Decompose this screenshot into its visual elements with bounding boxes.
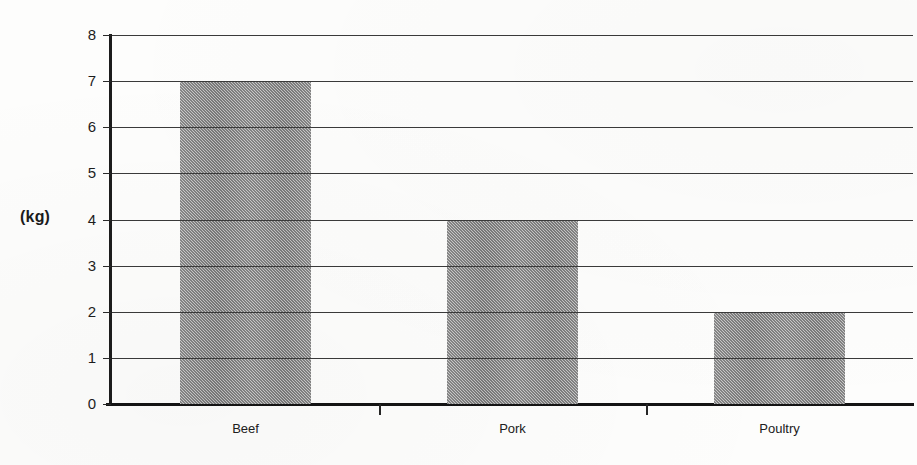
y-tick-label-8: 8 xyxy=(88,26,96,43)
y-tick-5: 5 xyxy=(103,173,111,174)
x-tick-boundary-1 xyxy=(379,404,381,415)
bar-texture xyxy=(180,81,311,404)
x-tick-boundary-2 xyxy=(646,404,648,415)
y-tick-label-7: 7 xyxy=(88,72,96,89)
y-tick-8: 8 xyxy=(103,35,111,36)
gridline-y-4 xyxy=(112,220,913,221)
plot-area: 012345678 BeefPorkPoultry xyxy=(112,35,913,404)
y-tick-label-6: 6 xyxy=(88,118,96,135)
gridline-y-1 xyxy=(112,358,913,359)
gridline-y-8 xyxy=(112,35,913,36)
y-axis-unit-label: (kg) xyxy=(20,208,50,226)
gridline-y-7 xyxy=(112,81,913,82)
y-tick-label-2: 2 xyxy=(88,303,96,320)
y-tick-4: 4 xyxy=(103,220,111,221)
y-tick-label-4: 4 xyxy=(88,211,96,228)
x-category-label-beef: Beef xyxy=(232,421,259,436)
y-tick-label-5: 5 xyxy=(88,165,96,182)
y-tick-7: 7 xyxy=(103,81,111,82)
bar-chart-figure: (kg) 012345678 BeefPorkPoultry xyxy=(0,0,917,465)
y-tick-0: 0 xyxy=(103,404,111,405)
y-tick-6: 6 xyxy=(103,127,111,128)
gridline-y-2 xyxy=(112,312,913,313)
gridline-y-6 xyxy=(112,127,913,128)
y-tick-2: 2 xyxy=(103,312,111,313)
y-tick-label-1: 1 xyxy=(88,349,96,366)
y-tick-label-3: 3 xyxy=(88,257,96,274)
y-tick-label-0: 0 xyxy=(88,395,96,412)
x-category-label-poultry: Poultry xyxy=(759,421,799,436)
gridline-y-0 xyxy=(112,404,913,405)
x-category-label-pork: Pork xyxy=(499,421,526,436)
y-tick-3: 3 xyxy=(103,266,111,267)
bar-beef xyxy=(180,81,311,404)
y-tick-1: 1 xyxy=(103,358,111,359)
gridline-y-3 xyxy=(112,266,913,267)
gridline-y-5 xyxy=(112,173,913,174)
